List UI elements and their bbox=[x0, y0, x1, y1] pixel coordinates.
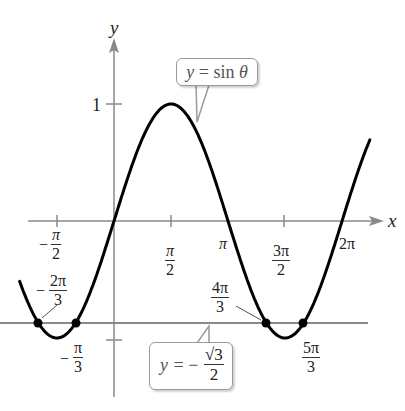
point-neg-2pi-3 bbox=[34, 319, 43, 328]
tick-label-neg-pi-2: π2 bbox=[51, 227, 61, 262]
label-4pi-3: 4π3 bbox=[211, 280, 229, 315]
point-neg-pi-3 bbox=[72, 319, 81, 328]
x-axis-label: x bbox=[388, 211, 396, 230]
tick-neg-pi-2-sign: − bbox=[39, 236, 48, 254]
point-4pi-3 bbox=[262, 319, 271, 328]
tick-label-pi-2: π2 bbox=[165, 243, 175, 278]
callout-line-tail bbox=[197, 326, 209, 343]
y-axis-label: y bbox=[110, 18, 118, 37]
point-5pi-3 bbox=[299, 319, 308, 328]
tick-label-2pi: 2π bbox=[339, 236, 355, 252]
callout-sine: y = sin θ bbox=[176, 58, 258, 86]
callout-horizontal-line: y = − √3 2 bbox=[149, 342, 233, 390]
tick-label-pi: π bbox=[219, 236, 227, 252]
pt-neg-2pi-3-sign: − bbox=[36, 282, 45, 300]
callout-fraction: √3 2 bbox=[204, 346, 224, 383]
label-5pi-3: 5π3 bbox=[302, 340, 320, 375]
tick-label-3pi-2: 3π2 bbox=[272, 243, 290, 278]
callout-sin-tail bbox=[196, 82, 210, 122]
label-neg-2pi-3: 2π3 bbox=[49, 273, 67, 308]
label-neg-pi-3: π3 bbox=[73, 340, 83, 375]
y-tick-label-1: 1 bbox=[92, 96, 101, 114]
pt-neg-pi-3-sign: − bbox=[60, 350, 69, 368]
